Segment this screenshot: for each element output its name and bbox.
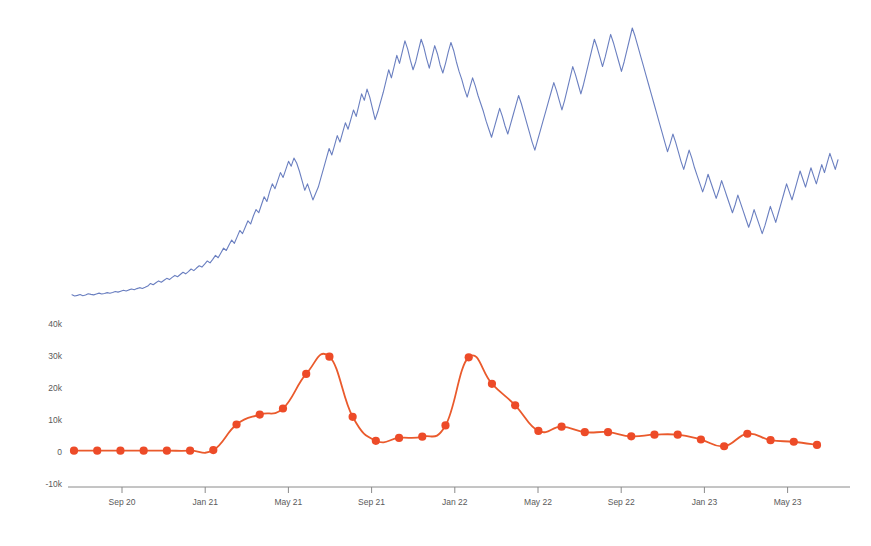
x-axis-tick-label: Jan 23: [692, 497, 718, 507]
y-axis-tick-labels: 40k30k20k10k0-10k: [45, 319, 62, 489]
y-axis-tick-label: -10k: [45, 479, 62, 489]
data-point-marker[interactable]: [349, 413, 357, 421]
price-series-line: [72, 28, 838, 296]
x-axis-tick-label: Sep 22: [608, 497, 635, 507]
price-panel: [72, 28, 838, 296]
y-axis-tick-label: 40k: [48, 319, 62, 329]
x-axis-tick-label: Jan 22: [442, 497, 468, 507]
data-point-marker[interactable]: [186, 447, 194, 455]
data-point-marker[interactable]: [325, 353, 333, 361]
volume-series-line: [74, 354, 817, 453]
data-point-marker[interactable]: [140, 447, 148, 455]
volume-data-markers: [70, 353, 821, 455]
x-axis-tick-label: Sep 20: [109, 497, 136, 507]
y-axis-tick-label: 20k: [48, 383, 62, 393]
x-axis-tick-label: Sep 21: [358, 497, 385, 507]
data-point-marker[interactable]: [534, 427, 542, 435]
chart-canvas: 40k30k20k10k0-10k Sep 20Jan 21May 21Sep …: [0, 0, 871, 546]
x-axis-tick-label: May 21: [274, 497, 302, 507]
data-point-marker[interactable]: [418, 433, 426, 441]
data-point-marker[interactable]: [372, 437, 380, 445]
data-point-marker[interactable]: [674, 431, 682, 439]
data-point-marker[interactable]: [163, 447, 171, 455]
data-point-marker[interactable]: [302, 370, 310, 378]
y-axis-tick-label: 30k: [48, 351, 62, 361]
data-point-marker[interactable]: [116, 447, 124, 455]
data-point-marker[interactable]: [697, 435, 705, 443]
data-point-marker[interactable]: [465, 353, 473, 361]
volume-panel: 40k30k20k10k0-10k Sep 20Jan 21May 21Sep …: [45, 319, 850, 507]
data-point-marker[interactable]: [488, 380, 496, 388]
y-axis-tick-label: 0: [57, 447, 62, 457]
data-point-marker[interactable]: [650, 431, 658, 439]
x-axis-tick-label: May 22: [524, 497, 552, 507]
data-point-marker[interactable]: [627, 432, 635, 440]
data-point-marker[interactable]: [720, 442, 728, 450]
data-point-marker[interactable]: [93, 447, 101, 455]
data-point-marker[interactable]: [232, 420, 240, 428]
data-point-marker[interactable]: [743, 430, 751, 438]
data-point-marker[interactable]: [604, 428, 612, 436]
data-point-marker[interactable]: [209, 446, 217, 454]
data-point-marker[interactable]: [70, 447, 78, 455]
x-axis-tick-labels: Sep 20Jan 21May 21Sep 21Jan 22May 22Sep …: [109, 497, 802, 507]
data-point-marker[interactable]: [256, 410, 264, 418]
data-point-marker[interactable]: [790, 438, 798, 446]
x-axis-tick-label: May 23: [774, 497, 802, 507]
x-axis-tick-label: Jan 21: [192, 497, 218, 507]
x-axis-tick-marks: [122, 487, 788, 493]
data-point-marker[interactable]: [557, 423, 565, 431]
data-point-marker[interactable]: [395, 434, 403, 442]
dual-panel-chart: 40k30k20k10k0-10k Sep 20Jan 21May 21Sep …: [0, 0, 871, 546]
data-point-marker[interactable]: [441, 421, 449, 429]
data-point-marker[interactable]: [279, 404, 287, 412]
data-point-marker[interactable]: [581, 428, 589, 436]
data-point-marker[interactable]: [511, 401, 519, 409]
y-axis-tick-label: 10k: [48, 415, 62, 425]
data-point-marker[interactable]: [766, 436, 774, 444]
data-point-marker[interactable]: [813, 441, 821, 449]
